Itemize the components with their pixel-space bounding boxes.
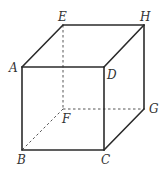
label-e: E	[57, 10, 67, 24]
label-a: A	[8, 61, 18, 75]
label-g: G	[149, 102, 159, 116]
cube-diagram: E H A D F G B C	[0, 0, 161, 171]
label-b: B	[16, 153, 26, 167]
label-d: D	[106, 68, 117, 82]
edge-ae	[22, 25, 63, 67]
label-f: F	[61, 112, 71, 126]
edge-fb	[22, 109, 63, 150]
edge-hd	[104, 25, 144, 67]
label-h: H	[139, 10, 151, 24]
edge-gc	[104, 109, 144, 150]
label-c: C	[101, 153, 110, 167]
